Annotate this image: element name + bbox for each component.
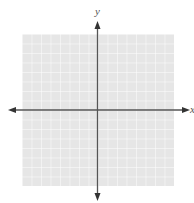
- x-axis-left-arrow-icon: [8, 107, 16, 113]
- y-axis-up-arrow-icon: [95, 21, 101, 29]
- x-axis-label: x: [190, 103, 194, 115]
- coordinate-plane: [0, 0, 194, 203]
- y-axis-label: y: [95, 5, 100, 17]
- x-axis-right-arrow-icon: [182, 107, 190, 113]
- y-axis-down-arrow-icon: [95, 193, 101, 201]
